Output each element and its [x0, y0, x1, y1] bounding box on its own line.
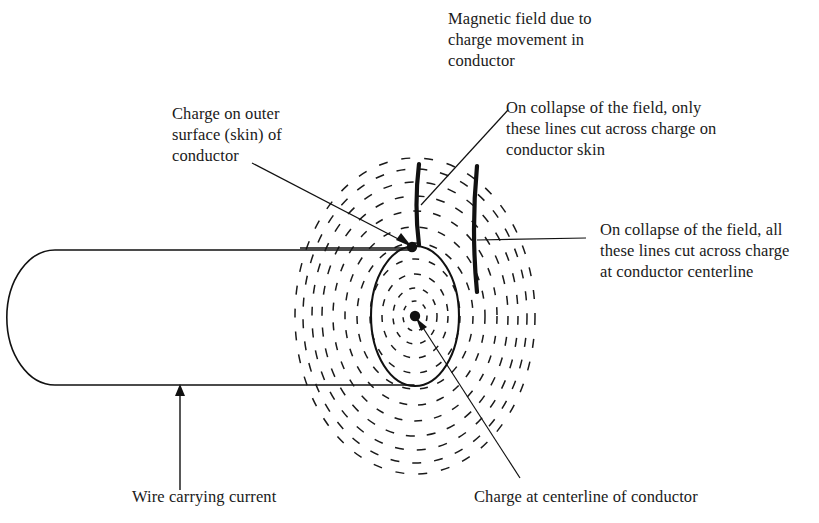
leader-skin-charge-diagonal	[252, 163, 404, 242]
field-brace-inner	[417, 164, 420, 245]
label-collapse-skin: On collapse of the field, only these lin…	[506, 97, 716, 160]
field-brace-outer	[474, 166, 477, 292]
label-magnetic-field: Magnetic field due to charge movement in…	[448, 8, 592, 71]
charge-dot-skin	[407, 242, 417, 252]
label-collapse-centerline: On collapse of the field, all these line…	[600, 219, 790, 282]
leader-center-charge	[418, 320, 520, 478]
diagram-page: Magnetic field due to charge movement in…	[0, 0, 819, 523]
label-wire-carrying-current: Wire carrying current	[132, 486, 276, 507]
leader-magnetic-field	[421, 110, 508, 205]
wire-cylinder	[7, 250, 414, 385]
charge-dot-center	[410, 311, 420, 321]
label-charge-at-centerline: Charge at centerline of conductor	[474, 486, 698, 507]
leader-collapse-centerline	[477, 238, 586, 240]
cylinder-outline	[7, 250, 414, 385]
label-charge-outer-surface: Charge on outer surface (skin) of conduc…	[172, 103, 282, 166]
